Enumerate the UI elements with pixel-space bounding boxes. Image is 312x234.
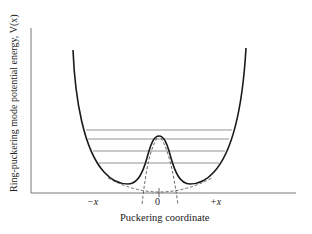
potential-curve [73, 48, 246, 184]
energy-levels [86, 130, 232, 163]
y-axis-label: Ring-puckering mode potential energy, V(… [8, 14, 19, 192]
tick-label-minus-x: −x [87, 196, 98, 207]
potential-energy-diagram: Ring-puckering mode potential energy, V(… [0, 0, 312, 234]
harmonic-dashed-curve [108, 178, 212, 192]
tick-label-zero: 0 [155, 196, 160, 207]
x-axis-label: Puckering coordinate [120, 212, 210, 223]
tick-label-plus-x: +x [210, 196, 221, 207]
